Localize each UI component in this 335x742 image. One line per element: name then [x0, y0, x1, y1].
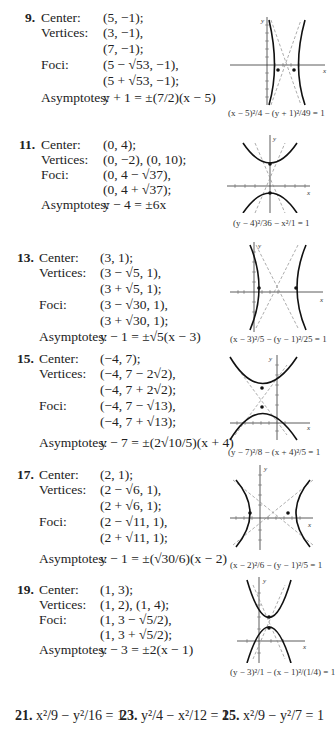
asymptotes-value: y − 1 = ±√5(x − 3) [100, 329, 201, 344]
graph-equation: (y − 4)²/36 − x²/1 = 1 [233, 218, 310, 228]
vertex-value: (7, −1); [103, 41, 144, 56]
bottom-answers: 21. x²/9 − y²/16 = 1 23. y²/4 − x²/12 = … [0, 700, 333, 740]
graph-equation: (x − 2)²/6 − (y − 1)²/5 = 1 [230, 560, 322, 570]
vertex-value: (0, −2), (0, 10); [103, 152, 186, 167]
svg-text:y: y [263, 465, 268, 473]
center-value: (−4, 7); [100, 351, 141, 366]
vertices-label: Vertices: [41, 25, 88, 40]
answer-23: 23. y²/4 − x²/12 = 1 [120, 708, 229, 724]
graph-equation: (x − 3)²/5 − (y − 1)²/25 = 1 [230, 334, 327, 344]
svg-text:x: x [306, 189, 311, 197]
focus-value: (0, 4 − √37), [103, 167, 171, 182]
asymptotes-label: Asymptotes: [39, 329, 107, 344]
vertices-label: Vertices: [39, 366, 86, 381]
problem-number: 15. [17, 351, 34, 366]
svg-text:y: y [257, 242, 262, 250]
vertices-label: Vertices: [41, 152, 88, 167]
vertex-value: (3 + √5, 1); [100, 281, 162, 296]
focus-value: (3 − √30, 1), [100, 297, 168, 312]
graph-equation: (y − 7)²/8 − (x + 4)²/5 = 1 [228, 447, 320, 457]
svg-text:y: y [272, 135, 277, 143]
graph-equation: (y − 3)²/1 − (x − 1)²/(1/4) = 1 [230, 667, 335, 677]
equation: x²/9 − y²/7 = 1 [243, 708, 324, 723]
svg-text:x: x [322, 67, 327, 75]
vertices-label: Vertices: [39, 597, 86, 612]
answer-21: 21. x²/9 − y²/16 = 1 [15, 708, 124, 724]
vertices-label: Vertices: [39, 265, 86, 280]
svg-text:y: y [268, 355, 273, 363]
answer-25: 25. x²/9 − y²/7 = 1 [222, 708, 324, 724]
center-value: (0, 4); [103, 137, 136, 152]
vertex-value: (3, −1), [103, 25, 143, 40]
vertex-value: (2 − √6, 1), [100, 482, 161, 497]
equation: y²/4 − x²/12 = 1 [141, 708, 229, 723]
problem-number: 17. [17, 467, 34, 482]
hyperbola-graph-15: x y [225, 355, 330, 445]
center-label: Center: [41, 137, 81, 152]
foci-label: Foci: [39, 514, 67, 529]
center-label: Center: [39, 467, 79, 482]
hyperbola-graph-9: x y [225, 15, 330, 107]
center-label: Center: [41, 10, 81, 25]
vertex-value: (1, 2), (1, 4); [100, 597, 169, 612]
asymptotes-value: y − 3 = ±2(x − 1) [100, 642, 193, 657]
vertex-value: (−4, 7 − 2√2), [100, 366, 176, 381]
asymptotes-label: Asymptotes: [39, 435, 107, 450]
focus-value: (−4, 7 − √13), [100, 398, 176, 413]
vertex-value: (3 − √5, 1), [100, 265, 161, 280]
asymptotes-label: Asymptotes: [41, 197, 109, 212]
center-value: (2, 1); [100, 467, 133, 482]
center-value: (3, 1); [100, 250, 133, 265]
focus-value: (1, 3 + √5/2); [100, 627, 172, 642]
center-label: Center: [39, 351, 79, 366]
asymptotes-label: Asymptotes: [39, 551, 107, 566]
equation: x²/9 − y²/16 = 1 [36, 708, 124, 723]
focus-value: (3 + √30, 1); [100, 313, 168, 328]
asymptotes-label: Asymptotes: [39, 642, 107, 657]
hyperbola-graph-13: x y [228, 240, 328, 332]
focus-value: (5 − √53, −1), [103, 57, 179, 72]
foci-label: Foci: [39, 612, 67, 627]
focus-value: (2 + √11, 1); [100, 530, 168, 545]
graph-equation: (x − 5)²/4 − (y + 1)²/49 = 1 [228, 108, 325, 118]
vertices-label: Vertices: [39, 482, 86, 497]
center-label: Center: [39, 250, 79, 265]
center-value: (5, −1); [103, 10, 144, 25]
problem-number: 9. [25, 10, 35, 25]
problem-number: 11. [19, 137, 35, 152]
svg-text:x: x [306, 424, 311, 432]
svg-text:x: x [319, 296, 324, 304]
problem-number: 13. [17, 250, 34, 265]
svg-text:y: y [262, 577, 267, 585]
focus-value: (2 − √11, 1), [100, 514, 167, 529]
focus-value: (0, 4 + √37); [103, 182, 171, 197]
asymptotes-value: y − 4 = ±6x [103, 197, 166, 212]
focus-value: (1, 3 − √5/2), [100, 612, 172, 627]
svg-text:y: y [260, 17, 265, 25]
foci-label: Foci: [41, 57, 69, 72]
asymptotes-value: y − 7 = ±(2√10/5)(x + 4) [100, 435, 234, 450]
asymptotes-value: y + 1 = ±(7/2)(x − 5) [103, 90, 216, 105]
focus-value: (−4, 7 + √13); [100, 414, 176, 429]
hyperbola-graph-17: x y [228, 465, 328, 555]
vertex-value: (−4, 7 + 2√2); [100, 382, 176, 397]
asymptotes-value: y − 1 = ±(√30/6)(x − 2) [100, 551, 227, 566]
svg-text:x: x [307, 521, 312, 529]
problem-number: 19. [17, 582, 34, 597]
foci-label: Foci: [39, 297, 67, 312]
foci-label: Foci: [39, 398, 67, 413]
focus-value: (5 + √53, −1); [103, 73, 179, 88]
vertex-value: (2 + √6, 1); [100, 498, 162, 513]
foci-label: Foci: [41, 167, 69, 182]
svg-text:x: x [302, 643, 307, 651]
center-label: Center: [39, 582, 79, 597]
hyperbola-graph-11: x y [225, 133, 315, 213]
asymptotes-label: Asymptotes: [41, 90, 109, 105]
hyperbola-graph-19: x y [235, 575, 315, 663]
center-value: (1, 3); [100, 582, 133, 597]
